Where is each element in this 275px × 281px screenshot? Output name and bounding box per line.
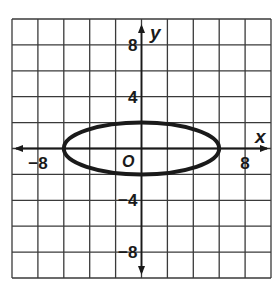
coordinate-plane: −8884−4−8 x y O (0, 0, 275, 281)
origin-label: O (122, 153, 135, 170)
axes (14, 24, 269, 275)
x-axis-label: x (254, 126, 267, 147)
y-axis-down-arrow-icon (138, 266, 145, 275)
y-tick-label: −8 (118, 243, 137, 262)
x-tick-label: 8 (240, 154, 249, 173)
y-tick-label: 4 (128, 88, 138, 107)
y-axis-up-arrow-icon (138, 24, 145, 33)
y-tick-label: 8 (128, 36, 137, 55)
x-tick-label: −8 (28, 154, 47, 173)
y-tick-label: −4 (118, 191, 138, 210)
x-axis-left-arrow-icon (14, 145, 23, 152)
y-axis-label: y (149, 22, 162, 43)
